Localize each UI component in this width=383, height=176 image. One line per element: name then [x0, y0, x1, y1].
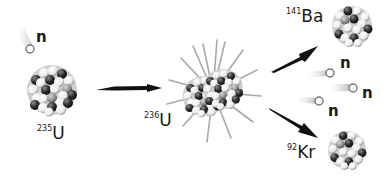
- released-neutron-2-label: n: [362, 86, 373, 101]
- u236-nucleus: [167, 40, 261, 142]
- released-neutron-3-label: n: [328, 104, 339, 119]
- arrow-u236-to-ba141: [271, 46, 318, 73]
- ba141-nucleus: [332, 6, 373, 47]
- incoming-neutron-label: n: [36, 30, 47, 45]
- kr92-nucleus: [328, 131, 366, 170]
- ba141-label: 141Ba: [286, 8, 323, 25]
- u236-mass-number: 236: [144, 111, 159, 120]
- u236-symbol: U: [159, 110, 171, 130]
- incoming-neutron: [14, 28, 34, 53]
- u235-nucleus: [27, 65, 77, 117]
- ba141-symbol: Ba: [301, 6, 323, 26]
- u235-mass-number: 235: [37, 124, 52, 133]
- u235-symbol: U: [52, 123, 64, 143]
- kr92-symbol: Kr: [297, 142, 315, 162]
- ba141-mass-number: 141: [286, 7, 301, 16]
- released-neutron-1-label: n: [340, 56, 351, 71]
- u235-label: 235U: [37, 125, 65, 142]
- arrow-u236-to-kr92: [269, 108, 318, 138]
- released-neutron-2: [325, 84, 357, 92]
- fission-diagram: n 235U 236U 141Ba 92Kr n n n: [0, 0, 383, 176]
- kr92-mass-number: 92: [287, 143, 297, 152]
- released-neutron-3: [294, 96, 323, 105]
- kr92-label: 92Kr: [287, 144, 315, 161]
- u236-label: 236U: [144, 112, 172, 129]
- arrow-u235-to-u236: [96, 84, 162, 92]
- released-neutron-1: [305, 69, 334, 78]
